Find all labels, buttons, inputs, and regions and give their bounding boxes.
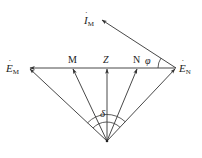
vector-en bbox=[107, 69, 175, 141]
svg-text:EN: EN bbox=[178, 62, 191, 76]
svg-text:EM: EM bbox=[5, 62, 20, 76]
label-n: N bbox=[133, 54, 140, 65]
label-delta: δ bbox=[100, 107, 106, 119]
label-en: EN · bbox=[178, 56, 191, 77]
vector-em bbox=[30, 69, 107, 141]
svg-text:·: · bbox=[85, 8, 88, 17]
label-m: M bbox=[68, 54, 77, 65]
delta-arc-inner bbox=[93, 122, 120, 128]
label-phi: φ bbox=[145, 55, 151, 66]
label-z: Z bbox=[103, 54, 109, 65]
label-im: IM · bbox=[83, 8, 95, 29]
vector-m bbox=[73, 69, 107, 141]
delta-arc-outer bbox=[88, 114, 126, 122]
phi-arc bbox=[158, 58, 161, 68]
phasor-diagram: EM · EN · IM · M Z N φ δ bbox=[0, 0, 202, 158]
svg-text:·: · bbox=[182, 56, 185, 65]
origin-point bbox=[106, 140, 109, 143]
label-em: EM · bbox=[5, 56, 20, 77]
svg-text:·: · bbox=[9, 56, 12, 65]
vector-n bbox=[107, 69, 137, 141]
